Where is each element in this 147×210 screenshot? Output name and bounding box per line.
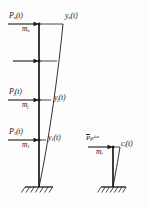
side-displacement-label-ci: ci(t) — [121, 140, 132, 149]
side-mass-label-mi: mi — [96, 148, 102, 157]
main-fixed-support — [22, 187, 54, 193]
side-mass-node — [112, 146, 115, 149]
mass-node-j — [38, 99, 41, 102]
structural-dynamics-figure: Pn(t) mn yn(t) Pj(t) mj yj(t) P1(t) m1 y… — [0, 0, 147, 210]
side-deflected-shape-curve — [113, 147, 120, 187]
force-arrow-mid — [13, 59, 39, 63]
side-force-label-harmonic: Pieiωt — [86, 134, 99, 142]
displacement-label-y1: y1(t) — [48, 134, 61, 143]
force-label-Pj: Pj(t) — [9, 88, 22, 97]
mass-node-n — [38, 23, 41, 26]
mass-node-mid — [38, 60, 41, 63]
side-frame-group — [88, 145, 126, 193]
mass-label-mn: mn — [22, 25, 29, 34]
displacement-label-yn: yn(t) — [65, 12, 78, 21]
main-frame-group — [8, 22, 63, 193]
mass-node-1 — [38, 139, 41, 142]
displacement-label-yj: yj(t) — [54, 94, 65, 103]
force-label-P1: P1(t) — [9, 128, 23, 137]
deflected-shape-curve — [39, 24, 63, 187]
mass-label-m1: m1 — [22, 141, 29, 150]
force-label-Pn: Pn(t) — [9, 12, 23, 21]
mass-label-mj: mj — [22, 101, 28, 110]
side-fixed-support — [98, 187, 127, 193]
